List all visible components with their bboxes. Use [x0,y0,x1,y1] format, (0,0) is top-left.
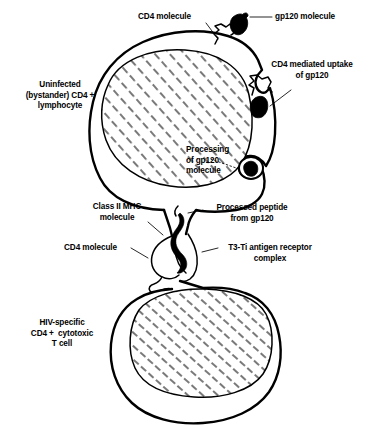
label-t3-ti-receptor: T3-Ti antigen receptor complex [220,243,320,264]
label-class-ii-mhc: Class II MHC molecule [84,202,150,223]
diagram-canvas: CD4 molecule gp120 molecule CD4 mediated… [0,0,368,429]
label-processed-peptide: Processed peptide from gp120 [204,203,300,224]
leader-t3ti [202,248,218,252]
gp120-processing-vesicle [239,157,263,179]
label-cd4-molecule-top: CD4 molecule [138,12,191,23]
label-cd4-molecule-bottom: CD4 molecule [64,243,117,254]
label-uninfected-lymphocyte: Uninfected (bystander) CD4 + lymphocyte [6,80,114,112]
label-hiv-specific-t-cell: HIV-specific CD4 + cytotoxic T cell [8,318,116,350]
gp120-free-molecule [230,13,248,35]
leader-cd4-bottom [131,248,148,258]
leader-mhc [148,222,163,235]
label-processing-of-gp120: Processing of gp120 molecule [186,145,229,177]
label-cd4-mediated-uptake: CD4 mediated uptake of gp120 [258,60,366,81]
label-gp120-molecule: gp120 molecule [275,12,335,23]
